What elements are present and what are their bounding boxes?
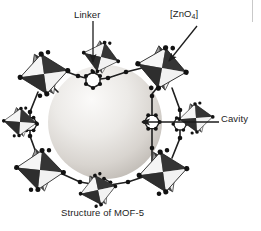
annotation-label-zno4: [ZnO4] [170,8,198,20]
scan-edge-artifact [252,0,253,22]
figure-caption: Structure of MOF-5 [61,207,144,218]
zno4-label-text: [ZnO [170,8,192,19]
annotation-label-cavity: Cavity [221,113,248,124]
annotation-label-linker: Linker [74,9,100,20]
zno4-arrow [169,26,197,61]
mof5-figure: Linker [ZnO4] Cavity Structure of MOF-5 [0,0,261,231]
zno4-label-tail: ] [196,8,199,19]
